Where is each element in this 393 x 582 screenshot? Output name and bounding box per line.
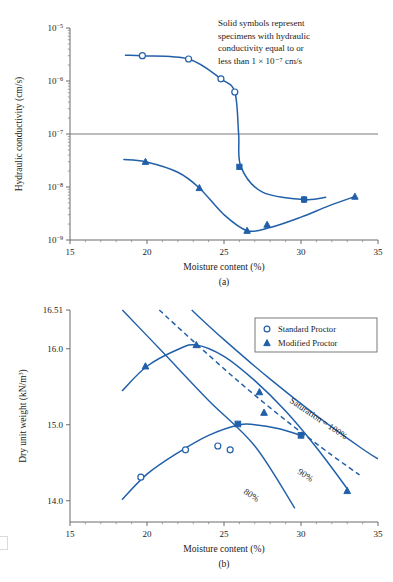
y-axis-title-a: Hydraulic conductivity (cm/s) bbox=[14, 77, 25, 192]
data-point-filled-triangle bbox=[352, 193, 358, 199]
data-point-filled bbox=[298, 433, 304, 439]
data-point-open bbox=[139, 53, 145, 59]
data-point-filled bbox=[237, 164, 242, 169]
svg-text:10−8: 10−8 bbox=[47, 181, 63, 192]
chart-a-svg: 10−910−810−710−610−51520253035Hydraulic … bbox=[0, 0, 393, 292]
y-tick-label-b: 15.0 bbox=[47, 420, 63, 430]
page-edge-artifact bbox=[0, 536, 8, 550]
data-point-open bbox=[138, 474, 144, 480]
svg-text:35: 35 bbox=[374, 247, 384, 257]
y-axis-title-b-full: Dry unit weight (kN/m3) bbox=[17, 369, 29, 463]
x-tick-label-b: 15 bbox=[66, 529, 76, 539]
data-point-filled bbox=[235, 421, 241, 427]
data-point-open bbox=[215, 443, 221, 449]
y-tick-label-b: 16.0 bbox=[47, 344, 63, 354]
data-point-filled-triangle bbox=[264, 221, 270, 227]
y-tick-label-b: 14.0 bbox=[47, 496, 63, 506]
annotation-line: conductivity equal to or bbox=[218, 43, 304, 53]
x-tick-label-b: 20 bbox=[143, 529, 153, 539]
data-point-open bbox=[232, 89, 238, 95]
x-tick-label-b: 25 bbox=[220, 529, 230, 539]
svg-text:25: 25 bbox=[220, 247, 230, 257]
annotation-line: Solid symbols represent bbox=[218, 18, 305, 28]
legend-label-standard: Standard Proctor bbox=[278, 324, 336, 334]
annotation-line: less than 1 × 10⁻⁷ cm/s bbox=[218, 56, 302, 66]
panel-label-a: (a) bbox=[219, 277, 230, 288]
x-axis-title-a: Moisture content (%) bbox=[183, 262, 264, 273]
svg-text:10−9: 10−9 bbox=[47, 234, 63, 245]
annotation-line: specimens with hydraulic bbox=[218, 31, 310, 41]
data-point-filled-triangle bbox=[261, 409, 268, 415]
saturation-label-80: 80% bbox=[242, 486, 262, 504]
svg-text:10−5: 10−5 bbox=[47, 22, 63, 33]
compaction-curve-standard bbox=[122, 424, 301, 499]
chart-b-svg: 16.5116.015.014.01520253035Dry unit weig… bbox=[0, 290, 393, 582]
x-tick-label-b: 30 bbox=[297, 529, 307, 539]
data-point-open bbox=[186, 56, 192, 62]
saturation-label-90: 90% bbox=[296, 466, 316, 484]
data-point-filled bbox=[301, 197, 307, 203]
curve-standard bbox=[125, 55, 325, 199]
data-point-open bbox=[227, 447, 233, 453]
svg-text:20: 20 bbox=[143, 247, 153, 257]
panel-label-b: (b) bbox=[218, 559, 229, 570]
x-axis-title-b: Moisture content (%) bbox=[183, 544, 264, 555]
svg-text:10−7: 10−7 bbox=[47, 128, 63, 139]
svg-text:10−6: 10−6 bbox=[47, 75, 63, 86]
y-tick-label-b: 16.51 bbox=[43, 305, 63, 315]
curve-modified bbox=[124, 160, 355, 232]
svg-text:30: 30 bbox=[297, 247, 307, 257]
data-point-open bbox=[183, 447, 189, 453]
figure-b-compaction-curves: 16.5116.015.014.01520253035Dry unit weig… bbox=[0, 290, 393, 582]
data-point-filled-triangle bbox=[256, 389, 263, 395]
data-point-open bbox=[218, 76, 224, 82]
figure-a-hydraulic-conductivity: 10−910−810−710−610−51520253035Hydraulic … bbox=[0, 0, 393, 292]
svg-text:15: 15 bbox=[66, 247, 76, 257]
x-tick-label-b: 35 bbox=[374, 529, 384, 539]
data-point-filled-triangle bbox=[344, 487, 351, 493]
legend-marker-open-circle bbox=[264, 326, 270, 332]
legend-label-modified: Modified Proctor bbox=[278, 338, 338, 348]
